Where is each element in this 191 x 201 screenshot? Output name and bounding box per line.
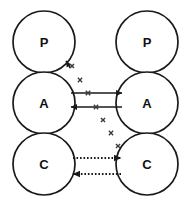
node-right-p[interactable]: P <box>116 11 178 73</box>
cross-mark-1 <box>70 64 74 68</box>
node-left-p[interactable]: P <box>13 11 75 73</box>
node-left-a[interactable]: A <box>13 72 75 134</box>
node-right-a[interactable]: A <box>116 72 178 134</box>
node-right-c[interactable]: C <box>116 133 178 195</box>
diagram-canvas: PACPAC <box>0 0 191 201</box>
node-left-c-label: C <box>39 157 49 172</box>
node-left-c[interactable]: C <box>13 133 75 195</box>
edges-layer <box>66 61 122 174</box>
cross-mark-6 <box>109 131 113 135</box>
cross-marks-layer <box>70 64 120 148</box>
diagram-svg: PACPAC <box>0 0 191 201</box>
cross-mark-5 <box>101 118 105 122</box>
node-right-p-label: P <box>143 35 152 50</box>
cross-mark-7 <box>116 144 120 148</box>
left-column: PAC <box>13 11 75 195</box>
node-right-c-label: C <box>142 157 152 172</box>
cross-mark-2 <box>78 78 82 82</box>
node-left-p-label: P <box>40 35 49 50</box>
node-right-a-label: A <box>142 96 152 111</box>
right-column: PAC <box>116 11 178 195</box>
node-left-a-label: A <box>39 96 49 111</box>
nodes-layer: PACPAC <box>13 11 178 195</box>
